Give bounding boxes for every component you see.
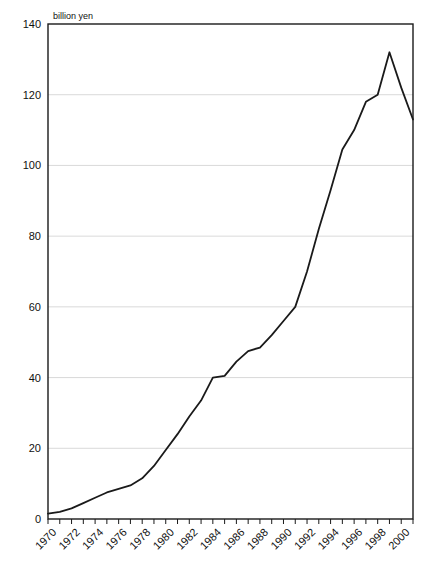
line-chart: 020406080100120140 197019721974197619781… (0, 0, 426, 578)
x-axis-tick-label: 1986 (221, 526, 247, 552)
x-axis-tick-label: 1980 (150, 526, 176, 552)
y-axis-tick-label: 60 (29, 301, 41, 313)
y-tick-labels-group: 020406080100120140 (23, 18, 41, 525)
x-axis-tick-label: 1978 (127, 526, 153, 552)
x-axis-tick-label: 1982 (174, 526, 200, 552)
y-axis-tick-label: 120 (23, 89, 41, 101)
x-tick-labels-group: 1970197219741976197819801982198419861988… (33, 526, 412, 552)
x-axis-tick-label: 1972 (56, 526, 82, 552)
x-axis-tick-label: 1996 (339, 526, 365, 552)
plot-frame (48, 24, 413, 519)
x-axis-tick-label: 1994 (315, 526, 341, 552)
x-axis-tick-label: 2000 (386, 526, 412, 552)
x-axis-tick-label: 1998 (362, 526, 388, 552)
y-axis-tick-label: 40 (29, 372, 41, 384)
x-axis-tick-label: 1992 (292, 526, 318, 552)
x-axis-tick-label: 1984 (197, 526, 223, 552)
x-tick-marks-group (48, 519, 413, 524)
y-axis-tick-label: 0 (35, 513, 41, 525)
x-axis-tick-label: 1990 (268, 526, 294, 552)
gridlines-group (48, 95, 413, 449)
data-series-line (48, 52, 413, 513)
y-axis-tick-label: 140 (23, 18, 41, 30)
y-axis-tick-label: 20 (29, 442, 41, 454)
y-axis-unit-label: billion yen (53, 11, 93, 21)
x-axis-tick-label: 1976 (103, 526, 129, 552)
y-axis-tick-label: 100 (23, 159, 41, 171)
x-axis-tick-label: 1970 (33, 526, 59, 552)
y-axis-tick-label: 80 (29, 230, 41, 242)
x-axis-tick-label: 1974 (80, 526, 106, 552)
chart-container: 020406080100120140 197019721974197619781… (0, 0, 426, 578)
x-axis-tick-label: 1988 (245, 526, 271, 552)
